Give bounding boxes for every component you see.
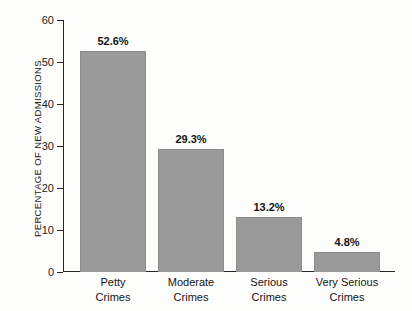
x-axis-category-label: Very SeriousCrimes — [314, 275, 380, 304]
bar-group: 52.6% — [80, 20, 146, 272]
x-axis-category-label-line: Very Serious — [314, 275, 380, 290]
x-axis-category-label: PettyCrimes — [80, 275, 146, 304]
x-axis-category-label-line: Crimes — [236, 290, 302, 305]
y-axis-tick-label: 10 — [42, 224, 54, 236]
y-axis-tick-label: 50 — [42, 56, 54, 68]
bars-layer: 52.6%29.3%13.2%4.8% — [63, 20, 395, 272]
bar — [158, 149, 224, 272]
bar — [236, 217, 302, 272]
x-axis-category-label-line: Crimes — [158, 290, 224, 305]
x-axis-category-label-line: Moderate — [158, 275, 224, 290]
bar-group: 4.8% — [314, 20, 380, 272]
x-axis-category-label: ModerateCrimes — [158, 275, 224, 304]
x-axis-category-label-line: Crimes — [314, 290, 380, 305]
x-axis-category-label-line: Petty — [80, 275, 146, 290]
plot-area: 0102030405060 52.6%29.3%13.2%4.8% — [63, 20, 395, 272]
bar-value-label: 52.6% — [97, 35, 128, 47]
x-axis-category-label-line: Crimes — [80, 290, 146, 305]
bar-chart: PERCENTAGE OF NEW ADMISSIONS 01020304050… — [0, 0, 412, 311]
bar-value-label: 13.2% — [253, 201, 284, 213]
y-axis-tick-label: 0 — [48, 266, 54, 278]
bar — [80, 51, 146, 272]
bar-group: 13.2% — [236, 20, 302, 272]
x-axis-category-label: SeriousCrimes — [236, 275, 302, 304]
x-axis-category-labels: PettyCrimesModerateCrimesSeriousCrimesVe… — [63, 275, 395, 311]
bar-value-label: 4.8% — [334, 236, 359, 248]
y-axis-tick-label: 60 — [42, 14, 54, 26]
bar-group: 29.3% — [158, 20, 224, 272]
y-axis-tick-label: 40 — [42, 98, 54, 110]
bar — [314, 252, 380, 272]
y-axis-tick-mark — [57, 272, 63, 273]
bar-value-label: 29.3% — [175, 133, 206, 145]
y-axis-tick-label: 20 — [42, 182, 54, 194]
x-axis-category-label-line: Serious — [236, 275, 302, 290]
y-axis-tick-label: 30 — [42, 140, 54, 152]
